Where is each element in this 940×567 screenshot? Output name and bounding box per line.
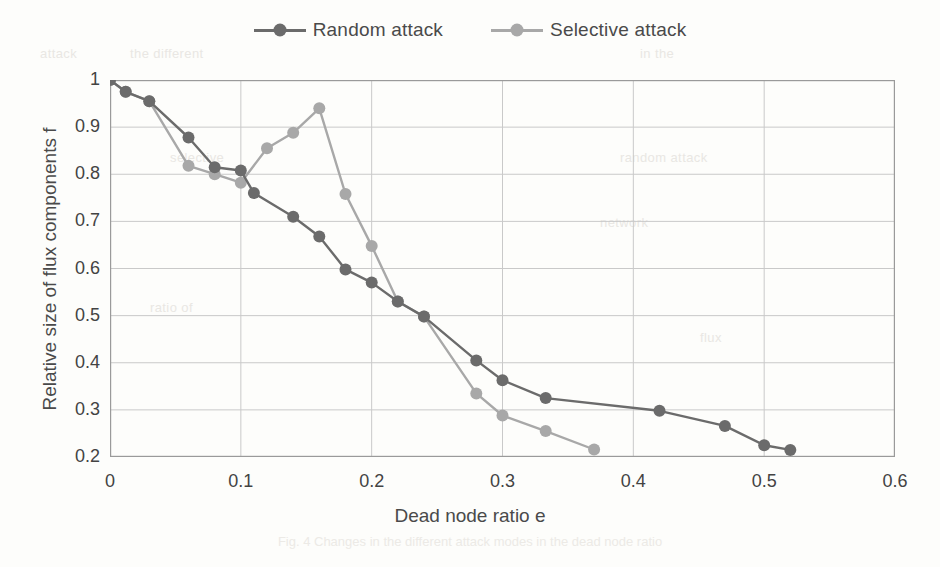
figure-container: attack the different in the selective ra…: [0, 0, 940, 567]
data-point: [313, 231, 325, 243]
y-tick-label: 0.7: [54, 210, 100, 231]
series-random-attack: [110, 80, 796, 456]
x-tick-label: 0.3: [473, 471, 533, 492]
data-point: [540, 425, 552, 437]
y-tick-label: 0.8: [54, 163, 100, 184]
x-axis-title: Dead node ratio e: [0, 505, 940, 527]
y-tick-label: 0.2: [54, 446, 100, 467]
legend-item-selective-attack[interactable]: Selective attack: [491, 19, 686, 41]
legend-label-selective-attack: Selective attack: [550, 19, 686, 41]
legend-item-random-attack[interactable]: Random attack: [254, 19, 443, 41]
data-point: [120, 86, 132, 98]
y-tick-label: 0.5: [54, 305, 100, 326]
legend-label-random-attack: Random attack: [313, 19, 443, 41]
data-point: [392, 296, 404, 308]
data-point: [183, 132, 195, 144]
y-tick-label: 0.6: [54, 258, 100, 279]
data-point: [758, 439, 770, 451]
data-point: [470, 387, 482, 399]
x-tick-label: 0.1: [211, 471, 271, 492]
chart-legend: Random attack Selective attack: [0, 14, 940, 46]
data-point: [366, 277, 378, 289]
data-point: [287, 211, 299, 223]
x-tick-label: 0.4: [603, 471, 663, 492]
data-point: [183, 160, 195, 172]
legend-marker-selective-attack: [491, 29, 543, 32]
data-point: [719, 420, 731, 432]
data-point: [497, 410, 509, 422]
x-tick-label: 0.5: [734, 471, 794, 492]
chart-svg: [110, 80, 895, 457]
data-point: [654, 405, 666, 417]
x-tick-label: 0.2: [342, 471, 402, 492]
plot-area: [110, 80, 895, 457]
ghost-text: the different: [130, 46, 204, 61]
data-point: [540, 392, 552, 404]
data-point: [235, 165, 247, 177]
figure-caption: Fig. 4 Changes in the different attack m…: [0, 534, 940, 549]
x-tick-label: 0.6: [865, 471, 925, 492]
legend-marker-random-attack: [254, 29, 306, 32]
data-point: [248, 187, 260, 199]
data-point: [340, 263, 352, 275]
data-point: [143, 95, 155, 107]
data-point: [366, 240, 378, 252]
data-point: [418, 311, 430, 323]
data-point: [313, 102, 325, 114]
series-line: [110, 80, 790, 450]
data-point: [470, 354, 482, 366]
y-tick-label: 1: [54, 69, 100, 90]
series-line: [110, 80, 594, 450]
data-point: [340, 188, 352, 200]
data-point: [287, 127, 299, 139]
ghost-text: in the: [640, 46, 674, 61]
x-tick-label: 0: [80, 471, 140, 492]
y-tick-label: 0.4: [54, 352, 100, 373]
y-tick-label: 0.3: [54, 399, 100, 420]
data-point: [784, 444, 796, 456]
data-point: [261, 142, 273, 154]
data-point: [497, 374, 509, 386]
y-tick-label: 0.9: [54, 116, 100, 137]
data-point: [209, 161, 221, 173]
data-point: [588, 444, 600, 456]
ghost-text: attack: [40, 46, 77, 61]
